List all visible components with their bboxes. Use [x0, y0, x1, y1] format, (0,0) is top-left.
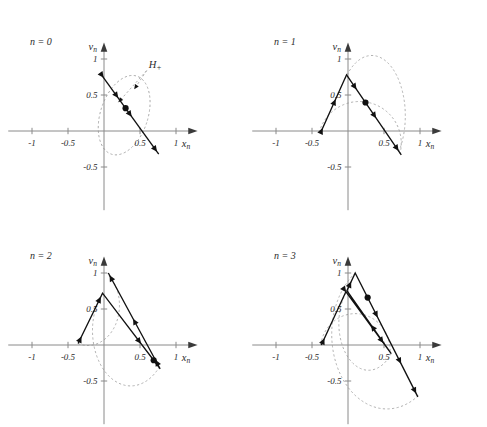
y-tick-label: -0.5: [83, 162, 98, 172]
panel-n-0: -1-0.50.51-0.50.51xnvnn = 0H+: [0, 0, 243, 213]
annotation-h-plus: H+: [148, 59, 162, 73]
y-tick-label: -0.5: [327, 162, 342, 172]
panel-n-3: -1-0.50.51-0.50.51xnvnn = 3: [244, 214, 487, 427]
guide-curve-arc-lower-left: [321, 314, 390, 355]
x-axis-label: xn: [181, 138, 191, 152]
x-axis-arrowhead: [188, 128, 197, 135]
panel-n-2: -1-0.50.51-0.50.51xnvnn = 2: [0, 214, 243, 427]
y-tick-label: -0.5: [83, 376, 98, 386]
plot-area: -1-0.50.51-0.50.51xnvnn = 0H+: [0, 0, 243, 213]
panel-iteration-label: n = 2: [30, 250, 52, 261]
y-axis-label: vn: [333, 41, 342, 55]
x-tick-label: 1: [418, 138, 423, 148]
x-tick-label: -0.5: [305, 138, 320, 148]
y-axis-arrowhead: [101, 256, 108, 265]
guide-curve-arc-left-upper: [78, 273, 119, 346]
panel-n-1: -1-0.50.51-0.50.51xnvnn = 1: [244, 0, 487, 213]
orbit-curve: [78, 273, 160, 369]
plot-area: -1-0.50.51-0.50.51xnvnn = 2: [0, 214, 243, 427]
x-axis-label: xn: [181, 352, 191, 366]
panel-iteration-label: n = 0: [30, 36, 52, 47]
orbit-direction-arrow: [98, 71, 104, 78]
y-axis-arrowhead: [101, 42, 108, 51]
y-axis-label: vn: [333, 255, 342, 269]
x-axis-label: xn: [425, 352, 435, 366]
x-tick-label: 0.5: [378, 352, 390, 362]
x-tick-label: 1: [174, 138, 179, 148]
x-tick-label: 1: [418, 352, 423, 362]
y-axis-label: vn: [89, 255, 98, 269]
guide-curve-arc-inner: [345, 55, 405, 152]
orbit-direction-arrow: [317, 128, 322, 135]
y-tick-label: -0.5: [327, 376, 342, 386]
orbit-direction-arrow: [340, 285, 346, 292]
orbit-direction-arrow: [393, 144, 399, 151]
x-tick-label: -0.5: [305, 352, 320, 362]
x-tick-label: 1: [174, 352, 179, 362]
figure-four-panel-phase-plots: -1-0.50.51-0.50.51xnvnn = 0H+ -1-0.50.51…: [0, 0, 487, 427]
x-axis-arrowhead: [188, 342, 197, 349]
x-tick-label: -1: [272, 352, 280, 362]
orbit-marker-dot: [122, 105, 128, 111]
x-tick-label: -0.5: [61, 352, 76, 362]
x-tick-label: 0.5: [378, 138, 390, 148]
x-tick-label: 0.5: [134, 352, 146, 362]
orbit-marker-dot: [151, 357, 157, 363]
y-tick-label: 1: [337, 268, 342, 278]
annotation-leader-line: [118, 71, 146, 103]
y-tick-label: 0.5: [86, 90, 98, 100]
x-axis-arrowhead: [432, 128, 441, 135]
orbit-direction-arrow: [370, 111, 376, 118]
orbit-direction-arrow: [135, 337, 141, 344]
orbit-marker-dot: [365, 295, 371, 301]
guide-curve-arc-right-lower: [92, 293, 158, 386]
orbit-direction-arrow: [112, 91, 118, 98]
y-tick-label: 1: [337, 54, 342, 64]
y-axis-arrowhead: [345, 42, 352, 51]
plot-area: -1-0.50.51-0.50.51xnvnn = 1: [244, 0, 487, 213]
x-tick-label: -1: [272, 138, 280, 148]
x-tick-label: -1: [28, 352, 36, 362]
y-tick-label: 1: [93, 268, 98, 278]
y-axis-label: vn: [89, 41, 98, 55]
orbit-direction-arrow: [351, 83, 357, 90]
x-axis-label: xn: [425, 138, 435, 152]
orbit-direction-arrow: [151, 145, 157, 152]
panel-iteration-label: n = 3: [274, 250, 296, 261]
plot-area: -1-0.50.51-0.50.51xnvnn = 3: [244, 214, 487, 427]
x-tick-label: 0.5: [134, 138, 146, 148]
guide-curve-ellipse-H-plus: [89, 69, 160, 162]
orbit-marker-dot: [362, 99, 368, 105]
y-tick-label: 1: [93, 54, 98, 64]
x-tick-label: -0.5: [61, 138, 76, 148]
panel-iteration-label: n = 1: [274, 36, 296, 47]
annotation-leader-arrowhead: [134, 84, 138, 89]
x-axis-arrowhead: [432, 342, 441, 349]
y-axis-arrowhead: [345, 256, 352, 265]
x-tick-label: -1: [28, 138, 36, 148]
